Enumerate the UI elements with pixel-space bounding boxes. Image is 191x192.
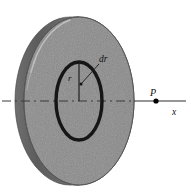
field-point-p xyxy=(153,98,158,103)
disk-diagram-svg xyxy=(0,0,191,192)
label-axis-x: x xyxy=(172,108,176,118)
label-radius-r: r xyxy=(68,74,72,83)
label-ring-width-dr: dr xyxy=(99,55,107,65)
physics-disk-figure: r dr P x xyxy=(0,0,191,192)
label-field-point-p: P xyxy=(150,88,156,98)
